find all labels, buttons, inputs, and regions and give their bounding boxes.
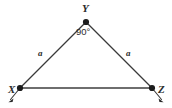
- vertex-dot-z: [149, 85, 155, 91]
- geometry-figure: Y X Z a a 90°: [0, 0, 172, 108]
- vertex-label-y: Y: [82, 3, 89, 14]
- side-yz-line: [86, 22, 152, 88]
- vertex-label-z: Z: [158, 84, 165, 95]
- side-label-xy: a: [38, 49, 43, 58]
- vertex-label-x: X: [8, 84, 15, 95]
- side-label-yz: a: [126, 49, 131, 58]
- vertex-dot-x: [17, 85, 23, 91]
- triangle-diagram-canvas: [0, 0, 172, 108]
- angle-label-y: 90°: [76, 27, 90, 37]
- vertex-dot-y: [83, 19, 89, 25]
